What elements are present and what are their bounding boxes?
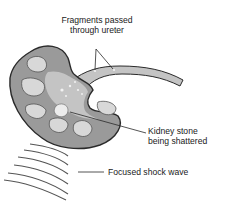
calyx-4 — [49, 118, 68, 133]
label-stone-line2: being shattered — [148, 136, 207, 146]
label-stone-line1: Kidney stone — [148, 126, 207, 136]
kidney-stone — [54, 104, 68, 117]
label-fragments: Fragments passed through ureter — [52, 15, 142, 35]
shock-waves — [4, 144, 68, 200]
label-fragments-line2: through ureter — [52, 25, 142, 35]
calyx-5 — [73, 121, 92, 137]
lithotripsy-diagram: Fragments passed through ureter Kidney s… — [0, 0, 229, 208]
label-kidney-stone: Kidney stone being shattered — [148, 126, 207, 146]
calyx-1 — [27, 56, 46, 72]
label-shockwave: Focused shock wave — [108, 167, 188, 177]
label-fragments-line1: Fragments passed — [52, 15, 142, 25]
